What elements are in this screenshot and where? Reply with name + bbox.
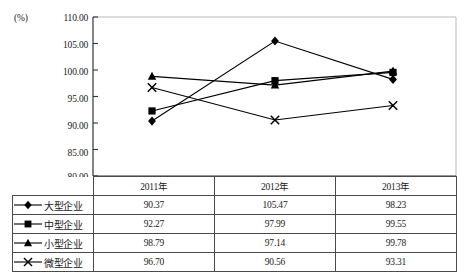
table-cell: 98.79 (94, 234, 215, 253)
line-chart: (%) 110.00 105.00 100.00 95.00 90.00 85.… (0, 0, 465, 180)
column-header-2013: 2013年 (336, 177, 457, 196)
table-corner-cell (13, 177, 94, 196)
table-cell: 105.47 (215, 196, 336, 215)
data-point-x (148, 83, 156, 91)
legend-entry-1[interactable]: 大型企业 (13, 196, 94, 215)
data-point-diamond (271, 36, 279, 45)
legend-marker-triangle-icon (13, 236, 43, 250)
legend-marker-square-icon (13, 217, 43, 231)
table-row: 中型企业92.2797.9999.55 (13, 215, 457, 234)
table-row: 微型企业96.7090.5693.31 (13, 253, 457, 272)
table-cell: 99.55 (336, 215, 457, 234)
legend-marker-diamond-icon (13, 198, 43, 212)
data-point-triangle (148, 72, 156, 80)
table-cell: 92.27 (94, 215, 215, 234)
data-table-wrap: 2011年 2012年 2013年 大型企业90.37105.4798.23中型… (12, 176, 456, 272)
data-point-square (148, 107, 155, 114)
chart-page: (%) 110.00 105.00 100.00 95.00 90.00 85.… (0, 0, 465, 277)
legend-entry-2[interactable]: 中型企业 (13, 215, 94, 234)
table-cell: 97.99 (215, 215, 336, 234)
plot-canvas (0, 0, 465, 180)
legend-label: 微型企业 (44, 255, 83, 270)
table-body: 大型企业90.37105.4798.23中型企业92.2797.9999.55小… (13, 196, 457, 272)
table-cell: 97.14 (215, 234, 336, 253)
series-line (152, 87, 393, 120)
table-cell: 96.70 (94, 253, 215, 272)
table-cell: 90.37 (94, 196, 215, 215)
table-cell: 93.31 (336, 253, 457, 272)
table-row: 小型企业98.7997.1499.78 (13, 234, 457, 253)
table-cell: 98.23 (336, 196, 457, 215)
column-header-2012: 2012年 (215, 177, 336, 196)
legend-marker-x-icon (13, 255, 43, 269)
data-table: 2011年 2012年 2013年 大型企业90.37105.4798.23中型… (12, 176, 457, 272)
table-cell: 90.56 (215, 253, 336, 272)
legend-entry-4[interactable]: 微型企业 (13, 253, 94, 272)
series-4 (148, 83, 397, 124)
data-point-diamond (148, 116, 156, 125)
table-cell: 99.78 (336, 234, 457, 253)
table-row: 大型企业90.37105.4798.23 (13, 196, 457, 215)
data-point-diamond (389, 75, 397, 84)
legend-label: 小型企业 (44, 236, 83, 251)
legend-label: 中型企业 (44, 217, 83, 232)
table-header-row: 2011年 2012年 2013年 (13, 177, 457, 196)
column-header-2011: 2011年 (94, 177, 215, 196)
legend-label: 大型企业 (44, 198, 83, 213)
legend-entry-3[interactable]: 小型企业 (13, 234, 94, 253)
